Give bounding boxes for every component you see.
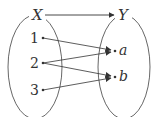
- element-3: 3: [30, 82, 39, 98]
- arrow-3-to-b: [43, 78, 111, 90]
- arrow-2-to-a: [43, 52, 111, 63]
- element-a: a: [119, 42, 127, 58]
- dot-b: [114, 76, 117, 79]
- set-y-ellipse: [98, 15, 150, 117]
- element-b: b: [119, 68, 128, 84]
- mapping-diagram: X Y 1 2 3 a b: [0, 0, 156, 117]
- arrow-2-to-b: [43, 63, 111, 76]
- dot-a: [114, 50, 117, 53]
- set-x-label: X: [31, 6, 44, 24]
- element-2: 2: [30, 55, 39, 71]
- element-1: 1: [30, 30, 39, 46]
- diagram-canvas: X Y 1 2 3 a b: [0, 0, 156, 117]
